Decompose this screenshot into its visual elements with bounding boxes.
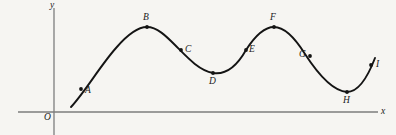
- curve-point-label-f: F: [270, 13, 276, 23]
- curve-plot: [0, 0, 396, 135]
- axes-group: [18, 8, 378, 135]
- curve-point-label-d: D: [209, 77, 216, 87]
- curve-point-label-h: H: [343, 96, 350, 106]
- curve-point-label-c: C: [185, 45, 191, 55]
- curve-point-label-i: I: [376, 60, 379, 70]
- curve-point-marker: [345, 90, 349, 94]
- origin-label: O: [44, 113, 51, 123]
- curve-point-label-e: E: [249, 45, 255, 55]
- x-axis-label: x: [381, 107, 385, 117]
- graph-figure: y x O ABCDEFGHI: [0, 0, 396, 135]
- curve-point-marker: [369, 63, 373, 67]
- curve-point-label-a: A: [85, 86, 91, 96]
- curve-point-marker: [79, 87, 83, 91]
- curve-point-marker: [244, 48, 248, 52]
- curve-point-label-g: G: [299, 50, 306, 60]
- curve-point-label-b: B: [143, 13, 149, 23]
- y-axis-label: y: [50, 1, 54, 11]
- curve-point-marker: [272, 25, 276, 29]
- curve-point-marker: [308, 54, 312, 58]
- curve-point-marker: [211, 71, 215, 75]
- curve-point-marker: [179, 48, 183, 52]
- function-curve: [71, 27, 375, 107]
- curve-point-marker: [145, 25, 149, 29]
